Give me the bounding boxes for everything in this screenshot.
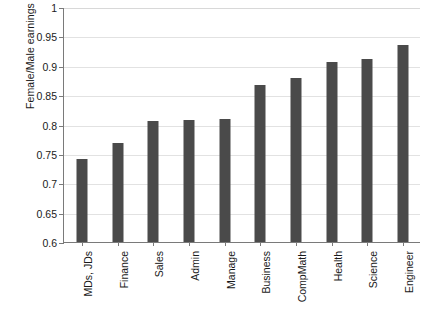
x-tick-label: Finance [118, 248, 130, 285]
x-tick-label: Sales [153, 248, 165, 274]
x-tick-label-text: Engineer [403, 251, 415, 293]
bar [76, 159, 87, 242]
y-tick-label: 0.7 [42, 178, 57, 190]
x-tick-label: Business [260, 248, 272, 291]
x-tick-label-text: Science [367, 251, 379, 288]
x-tick-label-text: Manage [225, 251, 237, 289]
x-tick-mark [225, 242, 226, 246]
x-tick-label: MDs, JDs [82, 248, 94, 294]
bar-group: Finance [100, 8, 136, 242]
x-tick-label-text: Health [332, 251, 344, 281]
bar-group: Business [243, 8, 279, 242]
bar-series: MDs, JDsFinanceSalesAdminManageBusinessC… [64, 8, 420, 242]
bar [148, 121, 159, 242]
bar-group: CompMath [278, 8, 314, 242]
bar [219, 119, 230, 242]
y-tick-label: 0.6 [42, 237, 57, 249]
bar-group: Science [350, 8, 386, 242]
bar [255, 85, 266, 242]
x-tick-label-text: Finance [118, 251, 130, 288]
x-tick-label: Science [367, 248, 379, 285]
x-tick-mark [82, 242, 83, 246]
y-tick-mark [59, 243, 64, 244]
bar [362, 59, 373, 242]
x-tick-mark [296, 242, 297, 246]
plot-area: 0.60.650.70.750.80.850.90.951 MDs, JDsFi… [63, 8, 420, 243]
x-tick-label-text: CompMath [296, 251, 308, 302]
y-axis-title: Female/Male earnings [24, 0, 36, 146]
x-tick-mark [332, 242, 333, 246]
y-tick-label: 0.75 [37, 149, 57, 161]
x-tick-mark [260, 242, 261, 246]
bar [398, 45, 409, 242]
x-tick-label-text: Sales [153, 251, 165, 277]
x-tick-label: Engineer [403, 248, 415, 290]
x-tick-label-text: MDs, JDs [82, 251, 94, 297]
x-tick-mark [153, 242, 154, 246]
y-tick-label: 0.8 [42, 120, 57, 132]
y-tick-label: 0.85 [37, 90, 57, 102]
x-tick-label: Health [332, 248, 344, 278]
bar-group: Admin [171, 8, 207, 242]
x-tick-label-text: Admin [189, 251, 201, 281]
y-tick-label: 0.65 [37, 208, 57, 220]
bar [183, 120, 194, 242]
bar-group: MDs, JDs [64, 8, 100, 242]
x-tick-mark [403, 242, 404, 246]
x-tick-mark [189, 242, 190, 246]
bar-group: Manage [207, 8, 243, 242]
bar-chart: Female/Male earnings 0.60.650.70.750.80.… [0, 0, 428, 312]
bar [291, 78, 302, 242]
bar [326, 62, 337, 242]
y-tick-label: 0.95 [37, 31, 57, 43]
y-tick-label: 0.9 [42, 61, 57, 73]
bar-group: Health [314, 8, 350, 242]
x-tick-label-text: Business [260, 251, 272, 294]
y-tick-label: 1 [51, 2, 57, 14]
x-tick-label: Admin [189, 248, 201, 278]
x-tick-label: CompMath [296, 248, 308, 299]
bar-group: Sales [135, 8, 171, 242]
bar-group: Engineer [385, 8, 421, 242]
x-tick-label: Manage [225, 248, 237, 286]
x-tick-mark [118, 242, 119, 246]
bar [112, 143, 123, 242]
x-tick-mark [367, 242, 368, 246]
